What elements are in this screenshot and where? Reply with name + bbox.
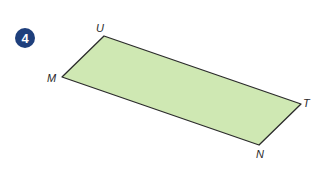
- diagram-canvas: 4 U T N M: [0, 0, 318, 180]
- problem-number-badge: 4: [15, 28, 35, 48]
- problem-number: 4: [21, 31, 29, 46]
- vertex-label-u: U: [96, 22, 104, 34]
- vertex-label-m: M: [47, 72, 57, 84]
- vertex-label-n: N: [256, 148, 264, 160]
- parallelogram-UTNM: [62, 36, 301, 145]
- vertex-label-t: T: [303, 97, 311, 109]
